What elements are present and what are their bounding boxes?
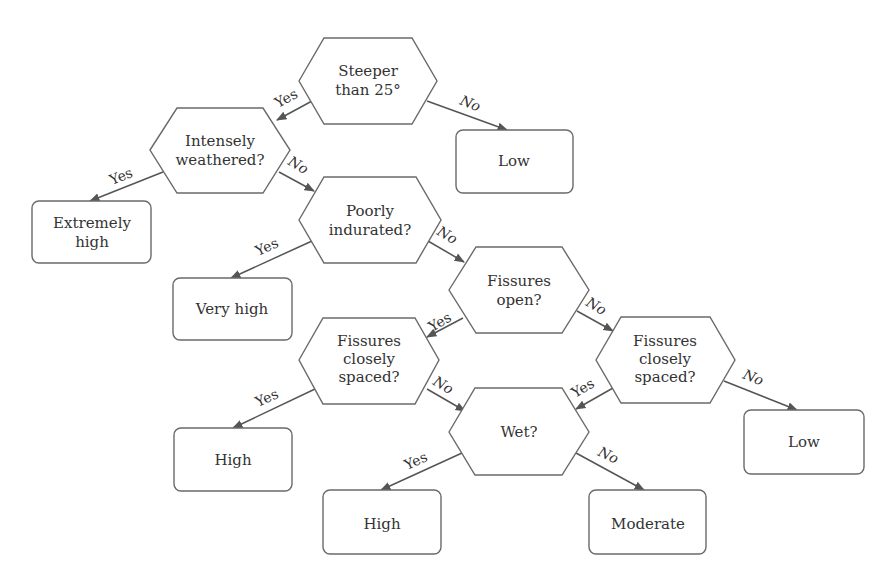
- decision-steeper: Steeper than 25°: [299, 38, 437, 124]
- label-indurated-yes: Yes: [252, 235, 281, 260]
- decision-spaced-right: Fissures closely spaced?: [596, 317, 735, 403]
- outcome-low-right: Low: [744, 410, 864, 474]
- edge-weathered-no: [279, 172, 314, 191]
- svg-text:Fissures: Fissures: [487, 272, 551, 290]
- svg-text:spaced?: spaced?: [634, 368, 695, 386]
- svg-text:Low: Low: [498, 152, 530, 170]
- decision-indurated: Poorly indurated?: [299, 177, 441, 263]
- svg-text:Wet?: Wet?: [500, 423, 537, 441]
- outcome-extremely-high: Extremely high: [32, 201, 151, 263]
- svg-text:Poorly: Poorly: [346, 202, 395, 220]
- svg-text:weathered?: weathered?: [176, 151, 265, 169]
- svg-text:High: High: [214, 451, 251, 469]
- svg-text:Extremely: Extremely: [53, 214, 131, 232]
- svg-text:Very high: Very high: [195, 300, 269, 318]
- svg-text:spaced?: spaced?: [338, 368, 399, 386]
- label-wet-no: No: [595, 443, 622, 467]
- svg-text:closely: closely: [639, 350, 692, 368]
- decision-fissures-open: Fissures open?: [449, 247, 589, 333]
- label-steeper-no: No: [457, 92, 483, 115]
- decision-spaced-left: Fissures closely spaced?: [299, 318, 439, 404]
- label-steeper-yes: Yes: [271, 85, 300, 111]
- label-weathered-no: No: [285, 152, 312, 177]
- svg-text:High: High: [363, 515, 400, 533]
- outcome-low-top: Low: [456, 130, 573, 193]
- outcome-high-left: High: [174, 428, 292, 491]
- label-open-no: No: [583, 293, 610, 318]
- decision-weathered: Intensely weathered?: [150, 108, 290, 193]
- label-spaced-left-yes: Yes: [252, 386, 281, 411]
- svg-text:indurated?: indurated?: [329, 221, 411, 239]
- svg-text:closely: closely: [343, 350, 396, 368]
- outcome-moderate: Moderate: [589, 490, 706, 554]
- svg-text:Fissures: Fissures: [337, 332, 401, 350]
- svg-text:high: high: [75, 233, 109, 251]
- svg-text:Steeper: Steeper: [338, 62, 399, 80]
- edge-indurated-no: [428, 241, 464, 262]
- svg-text:Fissures: Fissures: [633, 332, 697, 350]
- outcome-very-high: Very high: [173, 278, 292, 340]
- svg-text:Intensely: Intensely: [185, 132, 256, 150]
- svg-text:Moderate: Moderate: [611, 515, 685, 533]
- svg-text:Low: Low: [788, 433, 820, 451]
- svg-text:than 25°: than 25°: [335, 81, 401, 99]
- label-spaced-right-yes: Yes: [568, 375, 597, 401]
- outcome-high-bottom: High: [323, 490, 441, 554]
- label-spaced-right-no: No: [740, 366, 766, 389]
- decision-wet: Wet?: [449, 388, 589, 475]
- decision-tree-diagram: Yes No Yes No Yes No Yes No Yes No Yes N…: [0, 0, 893, 587]
- label-open-yes: Yes: [425, 309, 454, 335]
- svg-text:open?: open?: [496, 291, 541, 309]
